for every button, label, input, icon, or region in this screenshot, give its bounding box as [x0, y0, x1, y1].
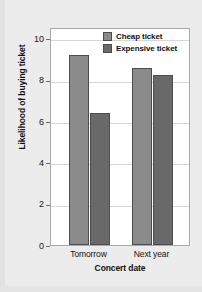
bar — [153, 75, 173, 246]
y-tick-label: 2 — [22, 200, 44, 209]
legend-item: Cheap ticket — [103, 31, 177, 41]
bar — [69, 55, 89, 245]
legend-item: Expensive ticket — [103, 43, 177, 53]
page-edge-left — [0, 0, 5, 292]
bar — [132, 68, 152, 245]
x-category-label: Tomorrow — [54, 249, 124, 259]
legend: Cheap ticketExpensive ticket — [103, 31, 177, 55]
x-axis-title: Concert date — [50, 263, 190, 273]
legend-label: Expensive ticket — [116, 44, 177, 53]
plot-area — [51, 29, 189, 245]
y-tick-label: 0 — [22, 242, 44, 251]
y-axis-title: Likelihood of buying ticket — [17, 22, 27, 172]
x-category-label: Next year — [117, 249, 187, 259]
bar — [90, 113, 110, 245]
plot-frame — [50, 28, 190, 246]
legend-swatch-icon — [103, 32, 112, 41]
legend-label: Cheap ticket — [116, 32, 162, 41]
y-tick-mark — [46, 246, 50, 247]
page-edge-bottom — [0, 286, 202, 292]
legend-swatch-icon — [103, 44, 112, 53]
chart-figure: 0246810 Likelihood of buying ticket Chea… — [0, 0, 202, 292]
